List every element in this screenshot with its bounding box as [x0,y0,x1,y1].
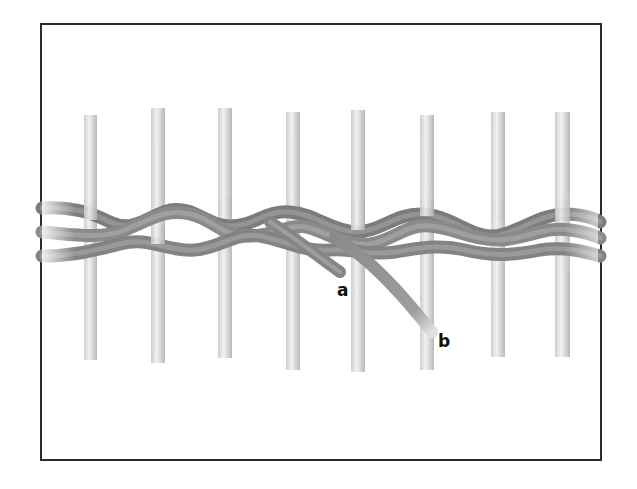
label-a: a [337,282,348,299]
weave-illustration [0,0,637,489]
label-b: b [438,333,450,350]
